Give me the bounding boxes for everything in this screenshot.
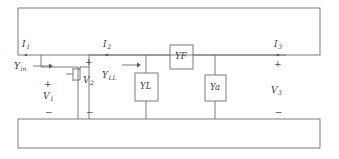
admittance-label-yin: Yin (14, 62, 26, 72)
node-dot-i1 (25, 54, 28, 57)
voltage-label-v3: V3 (271, 86, 282, 96)
arrow-yin-head (49, 64, 53, 69)
arrow-yll-head (137, 63, 141, 68)
voltage-label-v2: V2 (83, 76, 94, 86)
voltage-label-v1: V1 (43, 92, 54, 102)
minus-sign-v2: − (86, 108, 94, 117)
node-dot-i2 (106, 54, 109, 57)
node-dot-i3 (277, 54, 280, 57)
box-label-yl: YL (140, 82, 151, 91)
current-label-i1: I1 (22, 40, 30, 50)
admittance-label-yll: YLL (102, 71, 117, 81)
box-label-yf: YF (175, 52, 187, 61)
minus-sign-v3: − (275, 108, 283, 117)
plus-sign-v1: + (44, 80, 52, 89)
box-label-ya: Ya (210, 83, 220, 92)
circuit-diagram-canvas: I1 I2 I3 Yin YLL V1 V2 V3 YL YF Ya + − +… (0, 0, 339, 159)
current-label-i2: I2 (103, 40, 111, 50)
plus-sign-v2: + (85, 58, 93, 67)
bottom-rail-block (18, 119, 320, 148)
current-label-i3: I3 (274, 40, 282, 50)
minus-sign-v1: − (45, 108, 53, 117)
wire-input-branch (41, 55, 78, 67)
plus-sign-v3: + (274, 60, 282, 69)
